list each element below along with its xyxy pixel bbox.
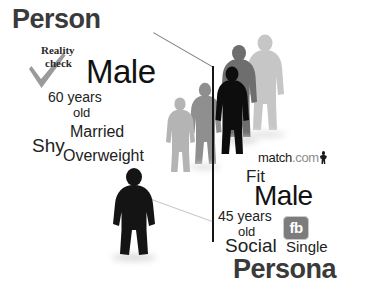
person-attribute-overweight: Overweight	[63, 148, 144, 164]
concept-diagram-canvas: Person Persona Reality check Male 60 yea…	[0, 0, 368, 296]
reality-check-label-line2: check	[45, 58, 72, 69]
person-attribute-age-line2: old	[73, 106, 90, 119]
person-attribute-married: Married	[70, 124, 124, 140]
person-attribute-shy: Shy	[32, 136, 65, 155]
page-title-person: Person	[12, 6, 101, 33]
persona-attribute-social: Social	[225, 236, 277, 255]
reality-check-label-line1: Reality	[41, 45, 75, 56]
figure-queue-1-faint	[163, 97, 197, 177]
person-attribute-gender: Male	[86, 55, 156, 88]
match-com-wordmark: match.com	[258, 150, 327, 165]
match-com-person-icon	[320, 151, 327, 164]
persona-attribute-single: Single	[286, 239, 328, 254]
match-com-wordmark-primary: match	[258, 150, 292, 165]
page-title-persona: Persona	[233, 256, 336, 283]
persona-attribute-gender: Male	[254, 182, 313, 210]
figure-foreground-person	[108, 168, 160, 260]
match-com-wordmark-suffix: .com	[292, 150, 319, 165]
figure-queue-3-dark	[212, 66, 252, 160]
facebook-fb-badge-icon: fb	[283, 216, 309, 240]
person-attribute-age-line1: 60 years	[48, 90, 102, 104]
persona-attribute-age-line1: 45 years	[218, 209, 272, 223]
divider-diagonal-top	[153, 32, 213, 67]
